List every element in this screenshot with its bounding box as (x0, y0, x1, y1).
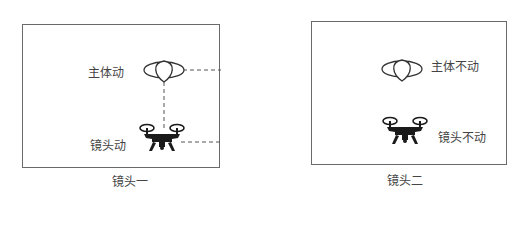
camera-label-2: 镜头不动 (438, 131, 486, 145)
subject-label-1: 主体动 (88, 66, 124, 80)
dashed-connector-vertical (163, 82, 165, 130)
drone-icon (138, 124, 186, 154)
balloon-icon (380, 58, 424, 82)
balloon-icon (142, 59, 186, 83)
caption-1: 镜头一 (112, 175, 148, 189)
subject-label-2: 主体不动 (431, 60, 479, 74)
camera-label-1: 镜头动 (90, 139, 126, 153)
dashed-connector-horizontal-top (183, 69, 221, 71)
caption-2: 镜头二 (387, 174, 423, 188)
drone-icon (381, 117, 429, 147)
dashed-connector-horizontal-bottom (181, 141, 221, 143)
